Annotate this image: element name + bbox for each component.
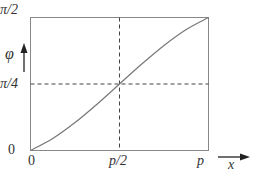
- x-axis-label: x: [228, 158, 234, 172]
- x-axis-arrow-icon: [240, 154, 250, 161]
- y-axis-label: φ: [5, 47, 14, 61]
- y-tick-top: π/2: [0, 3, 18, 17]
- x-tick-zero: 0: [28, 154, 35, 168]
- plot-canvas: [0, 0, 255, 173]
- y-axis-arrow-icon: [21, 43, 28, 53]
- x-tick-end: p: [197, 154, 204, 168]
- y-tick-mid: π/4: [0, 77, 18, 91]
- x-tick-mid: p/2: [109, 154, 127, 168]
- y-tick-zero: 0: [8, 143, 15, 157]
